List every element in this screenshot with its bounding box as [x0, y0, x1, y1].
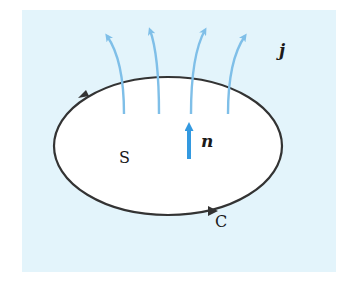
label-current-j: j [279, 40, 285, 60]
label-normal-n: n [201, 131, 213, 151]
diagram-canvas [0, 0, 344, 281]
label-surface-s: S [119, 148, 130, 167]
label-curve-c: C [215, 212, 227, 231]
surface-s [54, 77, 282, 215]
